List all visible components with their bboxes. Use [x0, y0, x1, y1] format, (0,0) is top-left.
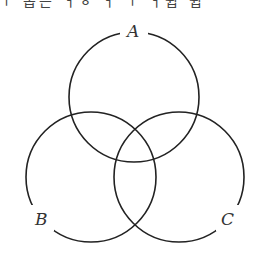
- set-c-label: C: [221, 209, 234, 229]
- set-a-circle: [69, 32, 199, 162]
- venn-diagram: A B C: [0, 0, 261, 259]
- set-a-label: A: [125, 21, 139, 41]
- set-b-label: B: [34, 209, 48, 229]
